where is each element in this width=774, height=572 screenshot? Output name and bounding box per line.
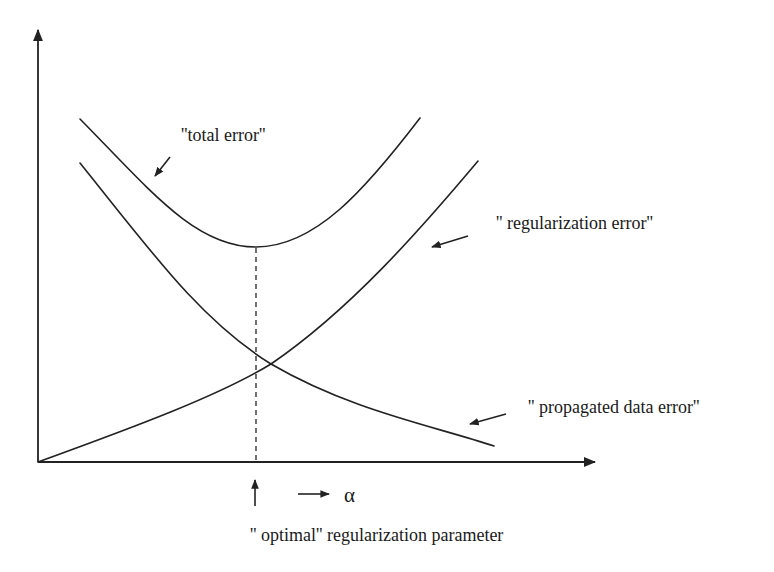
optimal-parameter-label: '' optimal'' regularization parameter bbox=[250, 525, 503, 545]
regularization-error-curve bbox=[38, 161, 478, 462]
regularization-error-label: '' regularization error'' bbox=[496, 213, 653, 233]
propagated-data-error-pointer-arrow bbox=[470, 414, 506, 424]
alpha-symbol-label: α bbox=[344, 483, 355, 507]
total-error-label: ''total error'' bbox=[181, 125, 265, 145]
regularization-error-pointer-arrow bbox=[432, 236, 468, 247]
propagated-data-error-label: '' propagated data error'' bbox=[528, 397, 699, 417]
total-error-pointer-arrow bbox=[155, 157, 170, 176]
regularization-error-diagram: ''total error'' '' regularization error'… bbox=[0, 0, 774, 572]
propagated-data-error-curve bbox=[80, 163, 494, 446]
